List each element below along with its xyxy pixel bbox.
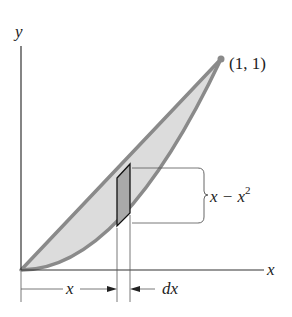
strip-height-base: x − x <box>209 187 246 206</box>
strip-height-label: x − x2 <box>209 184 251 206</box>
x-axis-label: x <box>266 260 275 279</box>
x-arrowhead <box>107 286 117 292</box>
strip-height-exponent: 2 <box>245 184 251 196</box>
x-width-label: x <box>65 279 74 298</box>
line-y-equals-x <box>21 59 221 270</box>
dx-arrowhead <box>130 286 140 292</box>
area-between-curves-diagram: y x (1, 1) x − x2 x dx <box>0 0 292 317</box>
point-1-1-dot <box>218 56 225 63</box>
point-label: (1, 1) <box>229 54 266 73</box>
y-axis-label: y <box>13 22 23 41</box>
dx-label: dx <box>162 279 179 298</box>
height-brace <box>198 168 208 223</box>
